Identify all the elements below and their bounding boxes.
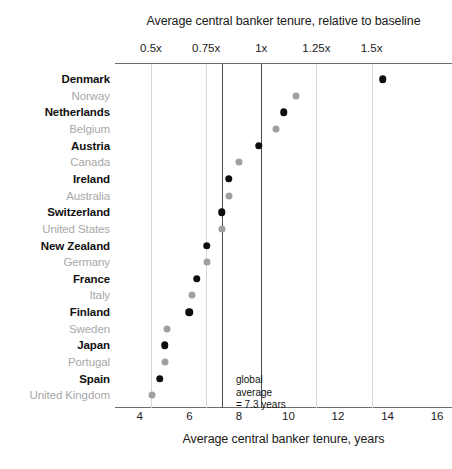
gridline-0.75x [206, 64, 207, 408]
country-label-france: France [0, 273, 110, 285]
bottom-axis-tick-16: 16 [431, 410, 444, 422]
top-axis-tick-0.75x: 0.75x [192, 42, 220, 54]
top-axis-tick-1.5x: 1.5x [361, 42, 383, 54]
data-point-norway [292, 92, 299, 99]
data-point-germany [203, 259, 210, 266]
gridline-1.5x [372, 64, 373, 408]
data-point-ireland [225, 175, 233, 183]
bottom-axis-tick-8: 8 [236, 410, 242, 422]
country-label-finland: Finland [0, 306, 110, 318]
country-label-switzerland: Switzerland [0, 206, 110, 218]
top-axis-tick-0.5x: 0.5x [140, 42, 162, 54]
country-label-belgium: Belgium [0, 123, 110, 135]
country-label-netherlands: Netherlands [0, 106, 110, 118]
country-label-austria: Austria [0, 140, 110, 152]
data-point-switzerland [218, 208, 226, 216]
country-label-canada: Canada [0, 156, 110, 168]
country-label-germany: Germany [0, 256, 110, 268]
country-label-spain: Spain [0, 373, 110, 385]
data-point-united-kingdom [149, 392, 156, 399]
data-point-france [193, 275, 201, 283]
country-label-norway: Norway [0, 90, 110, 102]
country-label-australia: Australia [0, 190, 110, 202]
country-label-portugal: Portugal [0, 356, 110, 368]
data-point-canada [235, 159, 242, 166]
country-label-italy: Italy [0, 289, 110, 301]
country-label-sweden: Sweden [0, 323, 110, 335]
data-point-belgium [273, 125, 280, 132]
country-label-new-zealand: New Zealand [0, 240, 110, 252]
country-label-ireland: Ireland [0, 173, 110, 185]
data-point-denmark [379, 75, 387, 83]
baseline-gridline-1x [261, 64, 262, 408]
bottom-axis-tick-10: 10 [282, 410, 295, 422]
top-axis-tick-1.25x: 1.25x [302, 42, 330, 54]
country-label-united-states: United States [0, 223, 110, 235]
data-point-spain [156, 375, 164, 383]
global-average-annotation: global average = 7.3 years [236, 374, 286, 412]
bottom-axis-tick-4: 4 [137, 410, 143, 422]
data-point-japan [161, 342, 169, 350]
data-point-portugal [161, 359, 168, 366]
data-point-united-states [218, 225, 225, 232]
top-axis-line [115, 63, 452, 64]
top-axis-tick-1x: 1x [255, 42, 267, 54]
gridline-0.5x [151, 64, 152, 408]
country-label-japan: Japan [0, 339, 110, 351]
bottom-axis-tick-6: 6 [186, 410, 192, 422]
country-label-united-kingdom: United Kingdom [0, 389, 110, 401]
data-point-sweden [164, 325, 171, 332]
bottom-axis-tick-12: 12 [332, 410, 345, 422]
chart-title-top: Average central banker tenure, relative … [115, 14, 452, 28]
data-point-austria [255, 142, 263, 150]
data-point-australia [225, 192, 232, 199]
global-average-line [222, 64, 223, 408]
data-point-italy [188, 292, 195, 299]
bottom-axis-tick-14: 14 [381, 410, 394, 422]
data-point-netherlands [280, 109, 288, 117]
gridline-1.25x [316, 64, 317, 408]
data-point-finland [186, 308, 194, 316]
country-label-denmark: Denmark [0, 73, 110, 85]
chart-title-bottom: Average central banker tenure, years [115, 432, 452, 446]
data-point-new-zealand [203, 242, 211, 250]
chart-figure: Average central banker tenure, relative … [0, 0, 452, 469]
